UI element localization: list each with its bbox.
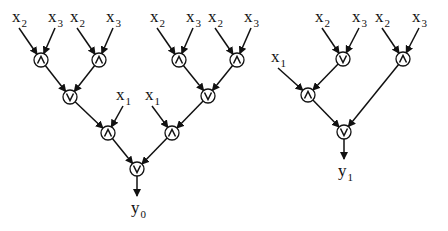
input-label-x3: x3 xyxy=(352,7,368,29)
or-gate-icon xyxy=(201,89,215,103)
edge-arrow xyxy=(346,28,359,53)
edge-arrow xyxy=(240,28,251,54)
edge-arrow xyxy=(322,28,339,53)
and-gate-icon xyxy=(301,88,315,102)
input-label-x2: x2 xyxy=(12,7,27,29)
and-gate-icon xyxy=(165,126,179,140)
edge-arrow xyxy=(77,28,95,54)
output-label-y0: y0 xyxy=(131,198,147,220)
and-gate-icon xyxy=(396,52,410,66)
or-gate-icon xyxy=(63,90,77,104)
input-label-x1: x1 xyxy=(145,85,160,107)
and-gate-icon xyxy=(230,53,244,67)
edge-arrow xyxy=(74,66,94,92)
or-gate-icon xyxy=(130,162,144,176)
edge-arrow xyxy=(102,28,113,54)
edge-arrow xyxy=(382,28,399,53)
input-label-x2: x2 xyxy=(315,7,330,29)
input-label-x1: x1 xyxy=(116,85,131,107)
edge-arrow xyxy=(157,28,175,54)
edge-arrow xyxy=(183,65,203,90)
input-label-x3: x3 xyxy=(412,7,428,29)
output-label-y1: y1 xyxy=(338,161,353,183)
edge-arrow xyxy=(313,100,339,127)
input-label-x3: x3 xyxy=(186,7,202,29)
and-gate-icon xyxy=(34,53,48,67)
input-label-x3: x3 xyxy=(244,7,260,29)
edge-arrow xyxy=(112,138,132,163)
edge-arrow xyxy=(44,28,55,54)
edge-arrow xyxy=(177,101,203,128)
edge-arrow xyxy=(348,64,398,126)
edge-arrow xyxy=(75,102,103,128)
edges-layer xyxy=(19,28,419,196)
edge-arrow xyxy=(278,68,303,90)
edge-arrow xyxy=(152,106,168,127)
input-label-x2: x2 xyxy=(150,7,165,29)
labels-layer: x2x3x2x3x2x3x2x3x1x1x2x3x2x3x1y0y1 xyxy=(12,7,428,220)
input-label-x2: x2 xyxy=(375,7,390,29)
edge-arrow xyxy=(313,64,338,90)
edge-arrow xyxy=(111,106,123,127)
input-label-x2: x2 xyxy=(208,7,223,29)
edge-arrow xyxy=(45,66,65,92)
circuit-svg: x2x3x2x3x2x3x2x3x1x1x2x3x2x3x1y0y1 xyxy=(0,0,448,231)
input-label-x3: x3 xyxy=(106,7,122,29)
edge-arrow xyxy=(182,28,193,54)
logic-circuit-diagram: x2x3x2x3x2x3x2x3x1x1x2x3x2x3x1y0y1 xyxy=(0,0,448,231)
and-gate-icon xyxy=(92,53,106,67)
or-gate-icon xyxy=(337,125,351,139)
edge-arrow xyxy=(212,65,232,90)
input-label-x2: x2 xyxy=(70,7,85,29)
input-label-x1: x1 xyxy=(271,47,286,69)
edge-arrow xyxy=(406,28,419,53)
and-gate-icon xyxy=(172,53,186,67)
and-gate-icon xyxy=(101,126,115,140)
edge-arrow xyxy=(142,138,167,164)
edge-arrow xyxy=(19,28,37,54)
input-label-x3: x3 xyxy=(48,7,64,29)
or-gate-icon xyxy=(336,52,350,66)
edge-arrow xyxy=(215,28,233,54)
